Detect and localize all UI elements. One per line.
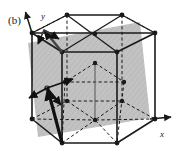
atom-bottom-rear-left (65, 99, 69, 103)
atom-top-right (153, 31, 158, 36)
atom-bottom-front-right (115, 141, 120, 146)
crystal-diagram-svg: (b) y x (0, 0, 177, 167)
panel-label: (b) (8, 14, 21, 27)
atom-top-front-right (115, 50, 120, 55)
y-axis-label: y (40, 11, 45, 21)
atom-mid-rear (93, 61, 97, 65)
x-axis-label: x (159, 129, 164, 139)
atom-bottom-center (93, 118, 97, 122)
atom-mid-right (122, 80, 126, 84)
atom-top-center (93, 32, 97, 36)
atom-bottom-left (30, 117, 35, 122)
atom-top-rear-right (120, 13, 125, 18)
atom-bottom-rear-right (120, 99, 124, 103)
hcp-crystal-figure: (b) y x (0, 0, 177, 167)
atom-top-rear-left (65, 13, 70, 18)
